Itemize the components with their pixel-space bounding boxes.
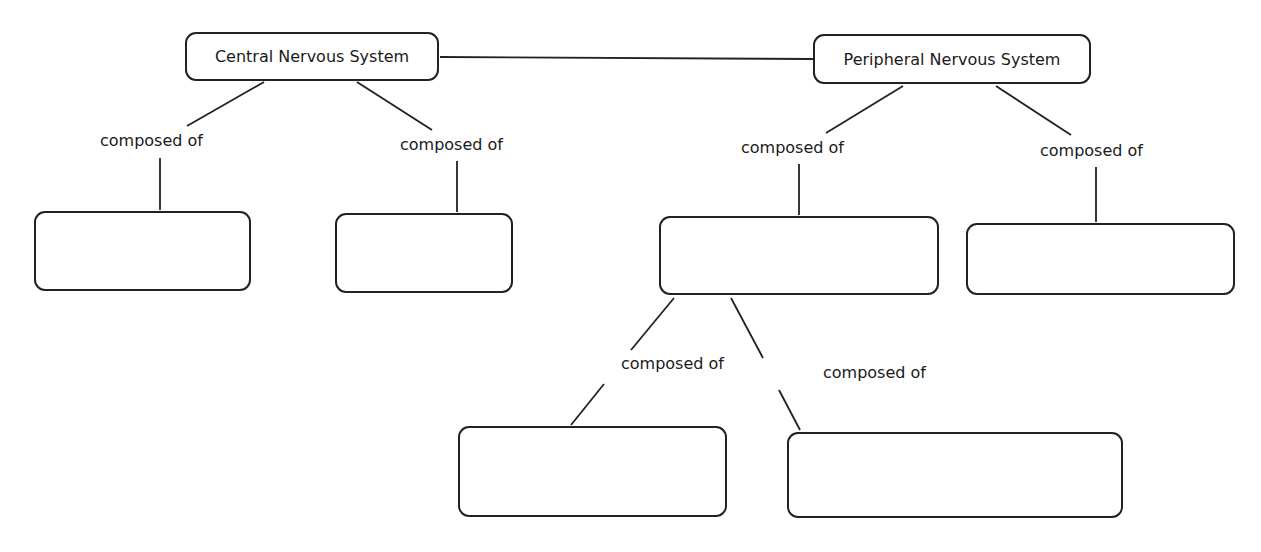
link-label-composed-of: composed of xyxy=(741,138,844,158)
node-peripheral-nervous-system: Peripheral Nervous System xyxy=(813,34,1091,84)
blank-box-sub-left[interactable] xyxy=(458,426,727,517)
link-label-composed-of: composed of xyxy=(823,363,926,383)
blank-box-pns-right[interactable] xyxy=(966,223,1235,295)
node-central-nervous-system: Central Nervous System xyxy=(185,32,439,81)
link-label-composed-of: composed of xyxy=(1040,141,1143,161)
blank-box-pns-left[interactable] xyxy=(659,216,939,295)
blank-box-sub-right[interactable] xyxy=(787,432,1123,518)
node-label: Peripheral Nervous System xyxy=(844,50,1061,69)
link-label-composed-of: composed of xyxy=(400,135,503,155)
node-label: Central Nervous System xyxy=(215,47,409,66)
blank-box-cns-left[interactable] xyxy=(34,211,251,291)
link-label-composed-of: composed of xyxy=(100,131,203,151)
link-label-composed-of: composed of xyxy=(621,354,724,374)
blank-box-cns-right[interactable] xyxy=(335,213,513,293)
